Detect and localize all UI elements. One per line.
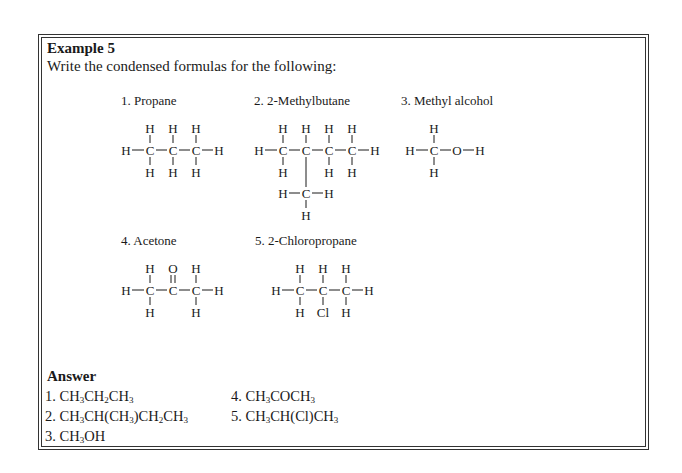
svg-text:Cl: Cl <box>317 305 330 320</box>
answer-item-1: 1. CH3CH2CH3 <box>45 388 133 405</box>
svg-text:C: C <box>169 283 178 298</box>
svg-text:H: H <box>301 121 310 136</box>
svg-text:H: H <box>301 208 310 223</box>
svg-text:H: H <box>295 261 304 276</box>
svg-text:H: H <box>254 143 263 158</box>
svg-text:H: H <box>278 165 287 180</box>
svg-text:C: C <box>192 283 201 298</box>
svg-text:C: C <box>192 143 201 158</box>
structure-2-chloropropane: HHH H C C C H HClH <box>263 261 383 325</box>
svg-text:H: H <box>278 121 287 136</box>
svg-text:H: H <box>475 143 484 158</box>
svg-text:H: H <box>191 121 200 136</box>
compound-label-acetone: 4. Acetone <box>121 233 177 249</box>
structure-methyl-alcohol: H H C O H H <box>397 121 497 185</box>
svg-text:H: H <box>341 261 350 276</box>
svg-text:C: C <box>325 143 334 158</box>
svg-text:H: H <box>145 121 154 136</box>
svg-text:H: H <box>191 305 200 320</box>
structure-2-methylbutane: HHHH H C C C C H HHH H C H H <box>246 121 396 230</box>
compound-label-methyl-alcohol: 3. Methyl alcohol <box>401 93 493 109</box>
svg-text:H: H <box>347 165 356 180</box>
svg-text:H: H <box>429 165 438 180</box>
svg-text:H: H <box>121 143 130 158</box>
svg-text:H: H <box>370 143 379 158</box>
svg-text:C: C <box>319 283 328 298</box>
svg-text:H: H <box>364 283 373 298</box>
svg-text:C: C <box>342 283 351 298</box>
svg-text:H: H <box>295 305 304 320</box>
svg-text:C: C <box>146 283 155 298</box>
svg-text:H: H <box>214 283 223 298</box>
example-title: Example 5 <box>47 40 115 57</box>
svg-text:H: H <box>271 283 280 298</box>
svg-text:H: H <box>145 305 154 320</box>
answer-item-4: 4. CH3COCH3 <box>231 388 315 405</box>
svg-text:C: C <box>302 186 311 201</box>
answer-title: Answer <box>47 368 96 385</box>
example-prompt: Write the condensed formulas for the fol… <box>47 58 336 75</box>
svg-text:H: H <box>121 283 130 298</box>
svg-text:C: C <box>430 143 439 158</box>
structure-propane: HHH H C C C H HHH <box>113 121 233 185</box>
svg-text:H: H <box>324 165 333 180</box>
svg-text:C: C <box>146 143 155 158</box>
answer-item-2: 2. CH3CH(CH3)CH2CH3 <box>45 408 188 425</box>
svg-text:C: C <box>348 143 357 158</box>
compound-label-2-chloropropane: 5. 2-Chloropropane <box>255 233 357 249</box>
svg-text:H: H <box>324 121 333 136</box>
svg-text:H: H <box>191 165 200 180</box>
svg-text:C: C <box>296 283 305 298</box>
compound-label-2-methylbutane: 2. 2-Methylbutane <box>254 93 350 109</box>
svg-text:O: O <box>452 143 461 158</box>
svg-text:H: H <box>145 165 154 180</box>
svg-text:C: C <box>279 143 288 158</box>
svg-text:O: O <box>168 261 177 276</box>
svg-text:C: C <box>169 143 178 158</box>
svg-text:C: C <box>302 143 311 158</box>
svg-text:H: H <box>214 143 223 158</box>
svg-text:H: H <box>191 261 200 276</box>
svg-text:H: H <box>347 121 356 136</box>
svg-text:H: H <box>168 165 177 180</box>
svg-text:H: H <box>278 186 287 201</box>
example-box: Example 5 Write the condensed formulas f… <box>38 34 649 450</box>
svg-text:H: H <box>145 261 154 276</box>
svg-text:H: H <box>168 121 177 136</box>
compound-label-propane: 1. Propane <box>121 93 177 109</box>
structure-acetone: HOH H C C C H HH <box>113 261 233 325</box>
svg-text:H: H <box>324 186 333 201</box>
answer-item-5: 5. CH3CH(Cl)CH3 <box>231 408 338 425</box>
svg-text:H: H <box>318 261 327 276</box>
svg-text:H: H <box>341 305 350 320</box>
svg-text:H: H <box>429 121 438 136</box>
svg-text:H: H <box>405 143 414 158</box>
answer-item-3: 3. CH3OH <box>45 428 105 445</box>
